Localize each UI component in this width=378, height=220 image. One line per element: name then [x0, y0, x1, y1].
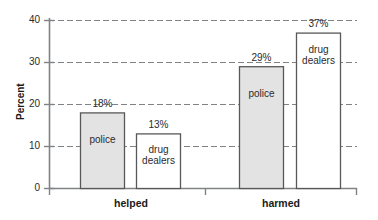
chart-canvas	[0, 0, 378, 220]
bar-helped-police	[81, 113, 125, 189]
bar-harmed-police	[240, 67, 284, 189]
bar-chart: Percent 40 30 20 10 0 18% 13% 29% 37% po…	[0, 0, 378, 220]
bar-helped-drug-dealers	[137, 134, 181, 189]
bars	[81, 33, 341, 188]
bar-harmed-drug-dealers	[297, 33, 341, 188]
